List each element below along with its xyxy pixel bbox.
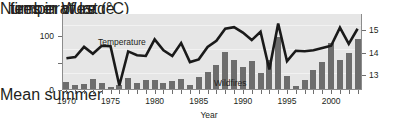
x-axis-tick <box>119 90 120 94</box>
series-label-wildfires: Wildfires <box>214 78 247 88</box>
x-axis-tick-label: 2000 <box>322 96 341 106</box>
x-axis-tick <box>287 90 288 94</box>
x-axis-tick <box>208 90 209 94</box>
right-axis-tick-label: 13 <box>369 70 378 80</box>
x-axis-tick-label: 1970 <box>57 96 76 106</box>
right-axis-tick <box>362 53 366 54</box>
x-axis-tick <box>66 90 67 94</box>
right-axis-tick <box>362 75 366 76</box>
series-label-temperature: Temperature <box>98 37 146 47</box>
x-axis-tick <box>269 90 270 94</box>
x-axis-tick <box>313 90 314 94</box>
x-axis-tick <box>137 90 138 94</box>
plot-border-left <box>62 14 63 90</box>
x-axis-tick <box>163 90 164 94</box>
left-axis-tick-label: 0 <box>28 85 54 95</box>
left-axis-tick <box>58 36 62 37</box>
plot-area: Temperature Wildfires <box>62 14 362 90</box>
left-axis-tick <box>58 90 62 91</box>
x-axis-tick <box>261 90 262 94</box>
x-axis-tick-label: 1980 <box>145 96 164 106</box>
x-axis-tick <box>305 90 306 94</box>
x-axis-tick <box>102 90 103 94</box>
left-axis-tick <box>58 63 62 64</box>
x-axis-tick <box>322 90 323 94</box>
x-axis-tick <box>190 90 191 94</box>
x-axis-tick-label: 1975 <box>101 96 120 106</box>
x-axis-tick <box>243 90 244 94</box>
x-axis-tick-label: 1995 <box>278 96 297 106</box>
x-axis-tick <box>234 90 235 94</box>
right-axis-tick <box>362 30 366 31</box>
x-axis-tick <box>199 90 200 94</box>
x-axis-tick <box>155 90 156 94</box>
x-axis-tick <box>252 90 253 94</box>
x-axis-tick <box>75 90 76 94</box>
chart-figure: Number of large fires in West Mean summe… <box>0 0 418 136</box>
x-axis-tick <box>146 90 147 94</box>
x-axis-tick-label: 1990 <box>233 96 252 106</box>
x-axis-tick <box>84 90 85 94</box>
x-axis-tick-label: 1985 <box>189 96 208 106</box>
x-axis-tick <box>216 90 217 94</box>
x-axis-title: Year <box>0 110 418 120</box>
x-axis-tick <box>340 90 341 94</box>
x-axis-tick <box>181 90 182 94</box>
x-axis-tick <box>172 90 173 94</box>
right-axis-tick-label: 14 <box>369 48 378 58</box>
x-axis-tick <box>111 90 112 94</box>
line-series-temperature <box>62 14 362 90</box>
x-axis-tick <box>296 90 297 94</box>
x-axis-tick <box>331 90 332 94</box>
left-axis-tick-label: 100 <box>28 31 54 41</box>
x-axis-tick <box>128 90 129 94</box>
x-axis-tick <box>225 90 226 94</box>
x-axis-tick <box>278 90 279 94</box>
x-axis-tick <box>358 90 359 94</box>
x-axis-tick <box>93 90 94 94</box>
x-axis-tick <box>349 90 350 94</box>
right-axis-tick-label: 15 <box>369 25 378 35</box>
plot-border-bottom <box>62 89 362 90</box>
